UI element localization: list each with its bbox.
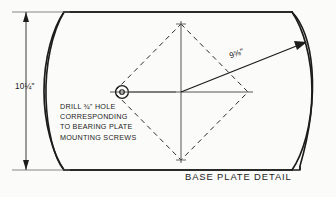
drawing-title: BASE PLATE DETAIL: [185, 171, 292, 182]
drill-note: DRILL ¾" HOLE CORRESPONDING TO BEARING P…: [60, 102, 136, 143]
radius-leader-line: [181, 41, 307, 92]
height-dimension: [12, 12, 70, 170]
drill-note-line-4: MOUNTING SCREWS: [60, 133, 136, 143]
drill-hole: [116, 86, 176, 99]
drill-note-line-1: DRILL ¾" HOLE: [60, 102, 136, 112]
drawing-canvas: [0, 0, 336, 197]
plate-outline: [46, 12, 313, 170]
base-plate-detail-drawing: 10¼" 9⅝" DRILL ¾" HOLE CORRESPONDING TO …: [0, 0, 336, 197]
drill-note-line-3: TO BEARING PLATE: [60, 122, 136, 132]
plate-outline-overlay: [44, 12, 312, 170]
height-dimension-label: 10¼": [15, 82, 35, 91]
drill-note-line-2: CORRESPONDING: [60, 112, 136, 122]
